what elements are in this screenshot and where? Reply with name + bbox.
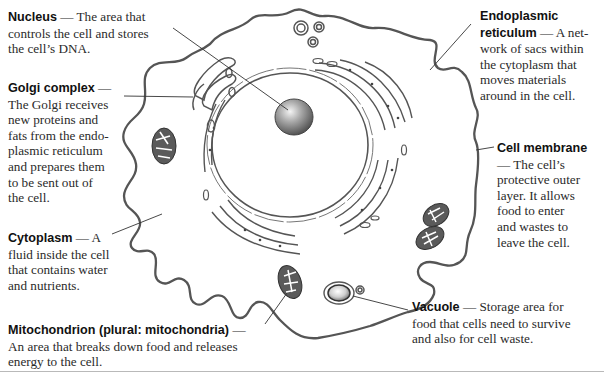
label-nucleus: Nucleus — The area that controls the cel… [8,9,188,57]
desc-cell-membrane: — The cell’s protective outer layer. It … [497,157,580,250]
bottom-divider [0,371,604,372]
term-cell-membrane: Cell membrane [497,141,587,155]
label-golgi-complex: Golgi complex — The Golgi receives new p… [8,80,133,206]
mitochondrion-right-lower [412,222,448,254]
endoplasmic-reticulum [204,60,412,254]
term-golgi-complex: Golgi complex [8,81,95,95]
nuclear-envelope [212,73,368,217]
term-er-line1: Endoplasmic [480,9,558,23]
golgi-complex [193,58,236,132]
term-cytoplasm: Cytoplasm [8,231,72,245]
desc-mitochondrion: An area that breaks down food and releas… [8,339,238,370]
label-mitochondrion: Mitochondrion (plural: mitochondria) — A… [8,322,308,370]
term-nucleus: Nucleus [8,10,57,24]
desc-golgi-complex: The Golgi receives new proteins and fats… [8,97,109,206]
mitochondrion-bottom [274,262,306,301]
label-endoplasmic-reticulum: Endoplasmic reticulum — A net- work of s… [480,8,604,104]
term-mitochondrion: Mitochondrion (plural: mitochondria) [8,323,229,337]
label-cell-membrane: Cell membrane — The cell’s protective ou… [497,140,604,250]
term-vacuole: Vacuole [412,300,460,314]
label-vacuole: Vacuole — Storage area for food that cel… [412,299,604,347]
vacuole [324,282,354,304]
label-cytoplasm: Cytoplasm — A fluid inside the cell that… [8,230,138,293]
term-er-line2: reticulum [480,26,537,40]
mitochondrion-left [152,128,176,164]
